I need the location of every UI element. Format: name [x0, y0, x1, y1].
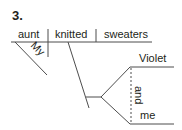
indirect-object-2: me — [140, 109, 155, 121]
exercise-number: 3. — [12, 8, 23, 23]
fork-upper-branch — [101, 67, 130, 97]
sentence-diagram: 3. aunt knitted sweaters My Violet me an… — [0, 0, 182, 130]
fork-lower-branch — [101, 97, 130, 124]
direct-object-word: sweaters — [104, 28, 149, 40]
indirect-object-1: Violet — [139, 52, 166, 64]
conjunction-word: and — [133, 86, 145, 104]
indirect-object-slant-line — [68, 42, 89, 108]
verb-word: knitted — [55, 28, 87, 40]
subject-word: aunt — [18, 28, 39, 40]
